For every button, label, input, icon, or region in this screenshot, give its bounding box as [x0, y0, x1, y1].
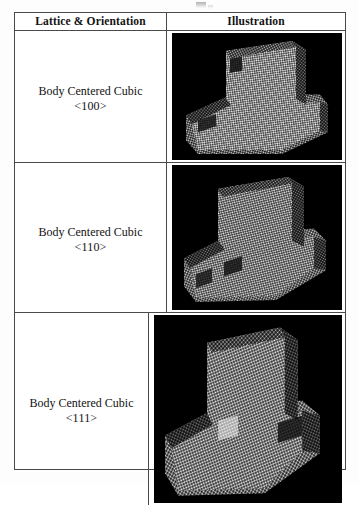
header-cell-illustration: Illustration — [167, 13, 345, 30]
orientation-index-0: <100> — [74, 99, 107, 114]
illustration-panel-2 — [154, 315, 342, 503]
header-label-lattice: Lattice & Orientation — [15, 13, 166, 30]
bcc-100-atomistic-render — [172, 33, 342, 160]
cell-lattice-orientation-1: Body Centered Cubic <110> — [15, 163, 167, 312]
table-row: Body Centered Cubic <100> — [15, 31, 345, 163]
scan-artifact — [196, 2, 206, 8]
scan-artifact — [208, 5, 213, 9]
cell-illustration-2 — [149, 313, 345, 505]
bcc-110-atomistic-render — [172, 165, 342, 310]
lattice-orientation-table: Lattice & Orientation Illustration Body … — [14, 12, 346, 470]
illustration-panel-0 — [172, 33, 342, 160]
cell-illustration-0 — [167, 31, 345, 162]
orientation-index-1: <110> — [74, 240, 106, 255]
table-row: Body Centered Cubic <110> — [15, 163, 345, 313]
lattice-name-0: Body Centered Cubic — [39, 84, 143, 99]
illustration-panel-1 — [172, 165, 342, 310]
lattice-name-2: Body Centered Cubic — [30, 396, 134, 411]
table-header-row: Lattice & Orientation Illustration — [15, 13, 345, 31]
cell-lattice-orientation-0: Body Centered Cubic <100> — [15, 31, 167, 162]
cell-lattice-orientation-2: Body Centered Cubic <111> — [15, 313, 149, 505]
table-row: Body Centered Cubic <111> — [15, 313, 345, 505]
lattice-name-1: Body Centered Cubic — [39, 225, 143, 240]
orientation-index-2: <111> — [66, 411, 98, 426]
header-cell-lattice: Lattice & Orientation — [15, 13, 167, 30]
cell-illustration-1 — [167, 163, 345, 312]
bcc-111-atomistic-render — [154, 315, 342, 503]
header-label-illustration: Illustration — [167, 13, 345, 30]
